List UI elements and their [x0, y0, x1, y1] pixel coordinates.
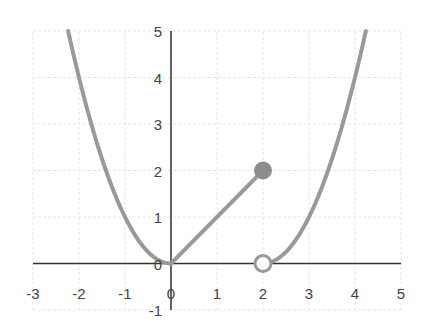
x-tick-label: 1	[213, 285, 221, 302]
x-tick-label: -2	[72, 285, 85, 302]
x-tick-label: -3	[26, 285, 39, 302]
x-tick-label: -1	[118, 285, 131, 302]
x-tick-label: 0	[167, 285, 175, 302]
left-parabola-curve	[68, 31, 171, 264]
x-tick-label: 5	[397, 285, 405, 302]
open-point-marker	[255, 256, 271, 272]
y-tick-label: 5	[154, 23, 162, 40]
grid-lines	[33, 31, 401, 310]
x-tick-labels: -3-2-1012345	[26, 285, 405, 302]
closed-point-marker	[254, 162, 272, 180]
x-tick-label: 2	[259, 285, 267, 302]
y-tick-label: -1	[149, 302, 162, 319]
x-tick-label: 4	[351, 285, 359, 302]
y-tick-label: 0	[154, 256, 162, 273]
piecewise-function-chart: -3-2-1012345 -1012345	[0, 0, 423, 334]
y-tick-label: 2	[154, 163, 162, 180]
y-tick-label: 3	[154, 116, 162, 133]
right-parabola-curve	[268, 31, 366, 263]
x-tick-label: 3	[305, 285, 313, 302]
y-tick-label: 4	[154, 70, 162, 87]
y-tick-label: 1	[154, 209, 162, 226]
